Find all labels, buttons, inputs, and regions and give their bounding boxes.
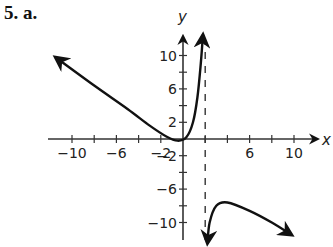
x-tick-label: −10 xyxy=(57,145,87,161)
curve-right-branch xyxy=(207,202,291,243)
x-tick-label: −6 xyxy=(106,145,127,161)
y-tick-label: 2 xyxy=(168,114,177,130)
x-tick-label: 6 xyxy=(245,145,254,161)
y-tick-label: −6 xyxy=(156,181,177,197)
x-tick-labels: −10−6−2610 xyxy=(57,145,303,161)
y-tick-label: −10 xyxy=(147,215,177,231)
y-tick-label: −2 xyxy=(156,148,177,164)
graph: −10−6−2610 1062−2−6−10 x y xyxy=(0,0,333,247)
y-axis-label: y xyxy=(177,8,188,26)
y-tick-label: 6 xyxy=(168,81,177,97)
y-tick-label: 10 xyxy=(159,48,177,64)
curve-left-branch xyxy=(55,35,203,141)
x-tick-label: 10 xyxy=(285,145,303,161)
x-axis-label: x xyxy=(321,131,331,149)
